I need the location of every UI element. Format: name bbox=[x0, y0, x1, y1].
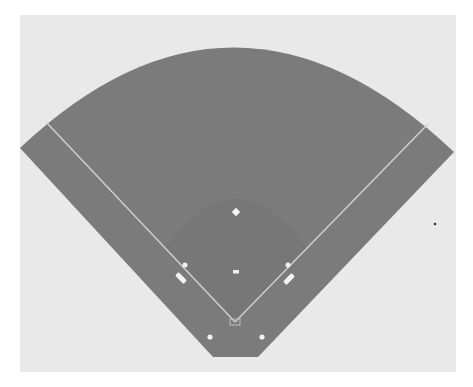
on-deck-circle-left-icon bbox=[207, 334, 212, 339]
third-base-icon bbox=[183, 263, 188, 268]
first-base-icon bbox=[286, 263, 291, 268]
on-deck-circle-right-icon bbox=[259, 334, 264, 339]
pitchers-mound-icon bbox=[233, 270, 239, 274]
stray-dot-marker bbox=[434, 223, 437, 226]
baseball-field-diagram bbox=[0, 0, 473, 387]
